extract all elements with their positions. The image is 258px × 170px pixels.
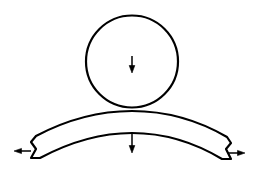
load-arrow-beam [129, 134, 135, 153]
reaction-arrow-left-head [14, 148, 22, 153]
reaction-arrow-right-head [238, 150, 246, 155]
diagram-canvas [0, 0, 258, 170]
reaction-arrow-right [228, 150, 245, 155]
reaction-arrow-left [14, 148, 31, 153]
curved-beam-shape [31, 111, 231, 159]
load-arrow-beam-head [129, 146, 135, 154]
technical-diagram [0, 0, 258, 170]
